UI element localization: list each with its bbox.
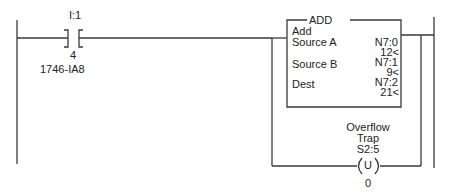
dest-label: Dest — [292, 79, 315, 90]
add-mnemonic: ADD — [309, 15, 332, 26]
contact-address: I:1 — [60, 10, 90, 21]
source-a-label: Source A — [292, 37, 337, 48]
contact-bit: 4 — [63, 50, 83, 61]
ladder-diagram: I:1 4 1746-IA8 ADD Add Source A N7:0 12<… — [0, 0, 450, 195]
dest-value: 21< — [350, 87, 399, 98]
coil-address: S2:5 — [338, 144, 398, 155]
coil-bit: 0 — [358, 178, 378, 189]
coil-unlatch-symbol: U — [358, 160, 378, 171]
source-b-label: Source B — [292, 59, 337, 70]
contact-module: 1746-IA8 — [40, 64, 85, 75]
